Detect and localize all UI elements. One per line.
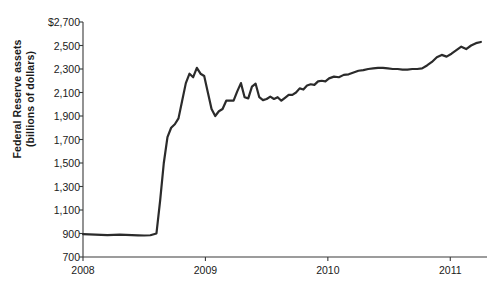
x-axis-ticks [83,257,450,261]
axes [83,22,487,257]
y-axis-ticks [79,22,83,257]
data-series-group [83,42,481,236]
chart-figure: Federal Reserve assets (billions of doll… [0,0,494,289]
series-line-federal-reserve-assets [83,42,481,236]
plot-area [0,0,494,289]
